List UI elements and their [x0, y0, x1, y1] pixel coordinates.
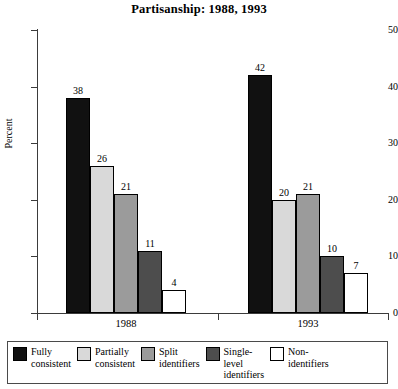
legend-item-label: Split identifiers [159, 346, 200, 369]
plot-area: 382621114422021107 [37, 30, 388, 313]
bar-value-label: 38 [63, 86, 93, 96]
bar-chart-figure: Partisanship: 1988, 1993 01020304050 Per… [0, 0, 398, 389]
x-tick-0 [37, 313, 38, 320]
bar-value-label: 42 [245, 63, 275, 73]
x-group-label-1993: 1993 [248, 318, 368, 329]
bar [114, 194, 138, 313]
chart-title: Partisanship: 1988, 1993 [0, 2, 398, 17]
bar [344, 273, 368, 313]
bar [162, 290, 186, 313]
y-axis-title: Percent [3, 104, 14, 164]
x-tick-1 [218, 313, 219, 320]
x-axis-line [37, 313, 388, 314]
legend-items: Fully consistentPartially consistentSpli… [8, 342, 387, 383]
legend-item[interactable]: Partially consistent [77, 346, 135, 369]
legend-swatch-icon [77, 347, 91, 361]
legend: Fully consistentPartially consistentSpli… [7, 341, 388, 384]
bar [66, 98, 90, 313]
x-group-label-1988: 1988 [66, 318, 186, 329]
legend-item-label: Fully consistent [31, 346, 71, 369]
legend-item-label: Single- level identifiers [224, 346, 265, 381]
legend-item[interactable]: Fully consistent [13, 346, 71, 369]
bar-value-label: 21 [111, 182, 141, 192]
legend-item[interactable]: Single- level identifiers [206, 346, 265, 381]
legend-item-label: Partially consistent [95, 346, 135, 369]
legend-swatch-icon [206, 347, 220, 361]
bar-value-label: 4 [159, 278, 189, 288]
bar-value-label: 10 [317, 244, 347, 254]
legend-swatch-icon [270, 347, 284, 361]
bar-value-label: 7 [341, 261, 371, 271]
bar [272, 200, 296, 313]
legend-item[interactable]: Non- identifiers [270, 346, 329, 369]
legend-swatch-icon [13, 347, 27, 361]
legend-item-label: Non- identifiers [288, 346, 329, 369]
bar-value-label: 21 [293, 182, 323, 192]
bar-value-label: 11 [135, 239, 165, 249]
bar-value-label: 26 [87, 154, 117, 164]
legend-item[interactable]: Split identifiers [141, 346, 200, 369]
legend-swatch-icon [141, 347, 155, 361]
x-tick-2 [388, 313, 389, 320]
